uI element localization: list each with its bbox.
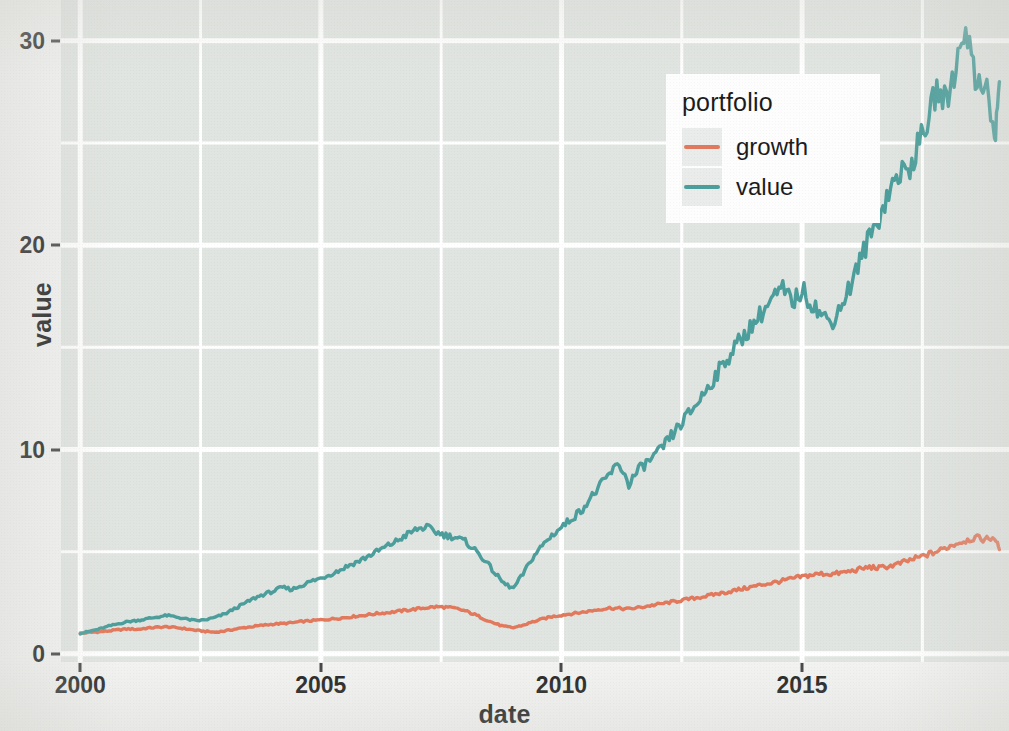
x-tick-mark (319, 663, 322, 672)
legend-key-growth (682, 128, 722, 166)
y-tick-mark (51, 39, 60, 42)
legend: portfolio growth value (666, 74, 880, 223)
chart-figure: value date 0102030 2000200520102015 port… (0, 0, 1009, 731)
y-tick-label: 10 (0, 436, 45, 463)
legend-label-value: value (736, 173, 793, 201)
x-tick-mark (79, 663, 82, 672)
y-tick-label: 30 (0, 27, 45, 54)
y-tick-mark (51, 448, 60, 451)
legend-title: portfolio (682, 88, 864, 117)
legend-item-value[interactable]: value (682, 167, 864, 207)
y-axis-title: value (28, 255, 57, 375)
x-tick-label: 2010 (501, 672, 621, 699)
y-tick-label: 20 (0, 232, 45, 259)
legend-label-growth: growth (736, 133, 808, 161)
legend-key-value (682, 168, 722, 206)
y-tick-mark (51, 652, 60, 655)
x-tick-label: 2000 (20, 672, 140, 699)
legend-item-growth[interactable]: growth (682, 127, 864, 167)
x-tick-label: 2015 (742, 672, 862, 699)
x-tick-label: 2005 (261, 672, 381, 699)
y-tick-mark (51, 244, 60, 247)
x-axis-title: date (0, 700, 1009, 729)
x-tick-mark (801, 663, 804, 672)
y-tick-label: 0 (0, 640, 45, 667)
x-tick-mark (560, 663, 563, 672)
